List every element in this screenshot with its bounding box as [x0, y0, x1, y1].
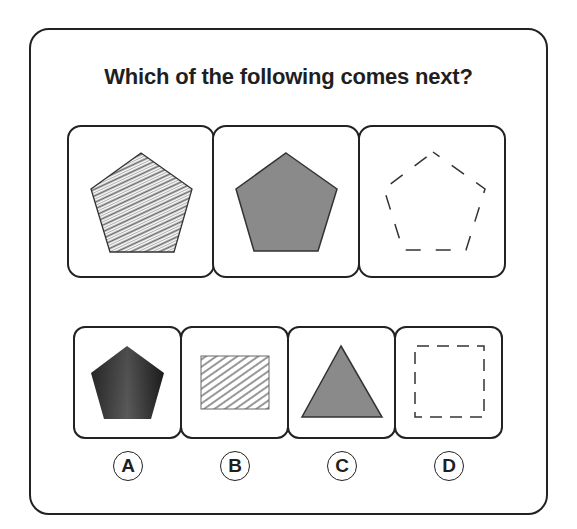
- option-label-c[interactable]: C: [327, 451, 357, 481]
- option-box-c[interactable]: [287, 326, 396, 439]
- sequence-box-3: [358, 125, 506, 278]
- option-label-d[interactable]: D: [434, 451, 464, 481]
- option-box-d[interactable]: [394, 326, 503, 439]
- question-title: Which of the following comes next?: [0, 64, 577, 90]
- option-box-b[interactable]: [180, 326, 289, 439]
- sequence-box-2: [212, 125, 360, 278]
- option-box-a[interactable]: [73, 326, 182, 439]
- option-label-a[interactable]: A: [113, 451, 143, 481]
- option-label-b[interactable]: B: [220, 451, 250, 481]
- sequence-box-1: [67, 125, 215, 278]
